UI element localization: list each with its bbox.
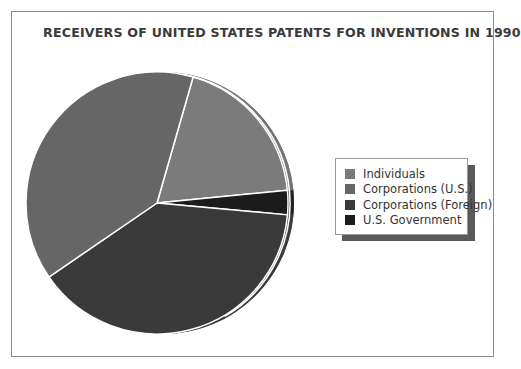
legend-label: Individuals xyxy=(363,167,425,181)
legend-item-us-government: U.S. Government xyxy=(345,213,467,229)
legend-item-corporations-us: Corporations (U.S.) xyxy=(345,182,467,198)
legend: Individuals Corporations (U.S.) Corporat… xyxy=(335,158,468,235)
legend-swatch xyxy=(345,215,355,225)
legend-label: U.S. Government xyxy=(363,213,461,227)
legend-item-corporations-foreign: Corporations (Foreign) xyxy=(345,197,467,213)
legend-item-individuals: Individuals xyxy=(345,166,467,182)
legend-swatch xyxy=(345,169,355,179)
legend-label: Corporations (Foreign) xyxy=(363,198,492,212)
legend-swatch xyxy=(345,184,355,194)
legend-label: Corporations (U.S.) xyxy=(363,182,473,196)
legend-swatch xyxy=(345,200,355,210)
